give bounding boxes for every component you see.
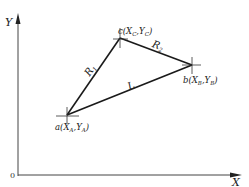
segment-r1-label: R1	[82, 62, 99, 79]
triangle-diagram: Y 0 X R1 R2 L c(XC,YC) b(XB,YB) a(XA,YA)	[0, 0, 249, 187]
y-axis-arrow-icon	[16, 13, 21, 24]
point-c-label: c(XC,YC)	[118, 26, 152, 37]
y-axis-label: Y	[5, 16, 14, 29]
point-markers	[56, 28, 201, 124]
point-b-label: b(XB,YB)	[183, 75, 218, 86]
triangle-segments	[67, 38, 192, 115]
segment-l-label: L	[125, 79, 137, 92]
segment-r1	[67, 38, 120, 115]
segment-r2-label: R2	[150, 38, 166, 54]
point-a-label: a(XA,YA)	[55, 122, 89, 133]
origin-label: 0	[10, 171, 15, 180]
x-axis-label: X	[231, 176, 241, 187]
